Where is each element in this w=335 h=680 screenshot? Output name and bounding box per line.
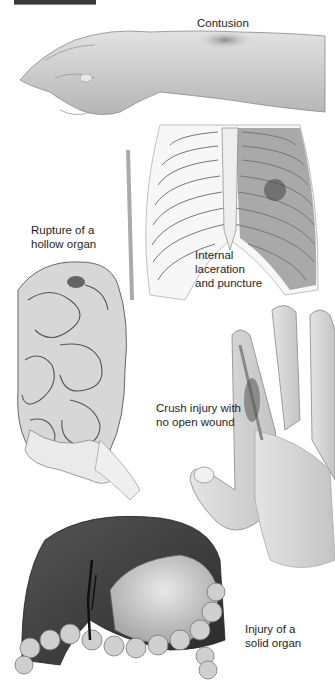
label-internal-laceration: Internal laceration and puncture xyxy=(195,248,262,290)
hand-crush-drawing xyxy=(190,305,335,567)
liver-organ-drawing xyxy=(15,516,225,679)
label-contusion: Contusion xyxy=(197,16,249,30)
injury-illustration xyxy=(0,0,335,680)
intestines-drawing xyxy=(18,262,140,500)
label-crush-injury: Crush injury with no open wound xyxy=(156,401,241,429)
label-rupture-hollow-organ: Rupture of a hollow organ xyxy=(31,223,96,251)
arm-contusion-drawing xyxy=(20,31,325,115)
label-solid-organ: Injury of a solid organ xyxy=(245,622,301,650)
